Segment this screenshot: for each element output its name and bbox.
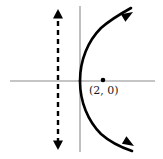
focus-point-label: (2, 0) [89,85,119,96]
directrix-up-arrowhead [53,9,63,19]
lower-arrowhead [122,136,134,146]
focus-point [101,78,106,83]
diagram-canvas [0,0,163,159]
directrix-down-arrowhead [53,141,63,151]
parabola-diagram: (2, 0) [0,0,163,159]
parabola-upper-branch [80,8,131,81]
